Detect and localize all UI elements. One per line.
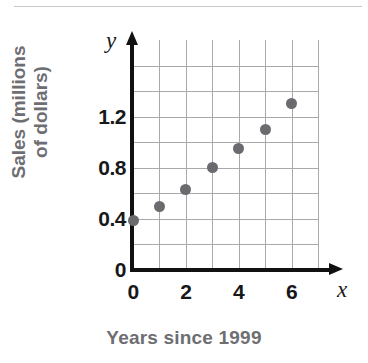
scatter-plot-figure: 00.40.81.2 0246 y x Sales (millions of d…: [0, 0, 368, 363]
gridline-vertical: [159, 40, 160, 270]
data-point: [260, 124, 271, 135]
gridline-horizontal: [133, 219, 318, 220]
y-tick-label: 1.2: [98, 105, 126, 129]
y-axis-line: [130, 44, 134, 272]
x-axis-line: [131, 268, 331, 272]
y-axis-title-line-2: of dollars): [30, 66, 52, 158]
data-point: [128, 215, 139, 226]
y-axis-title-line-1: Sales (millions: [8, 45, 30, 178]
gridline-horizontal: [133, 91, 318, 92]
gridline-vertical: [239, 40, 240, 270]
x-tick-label: 2: [171, 280, 201, 304]
gridline-vertical: [186, 40, 187, 270]
gridline-horizontal: [133, 244, 318, 245]
y-axis-tick-labels: 00.40.81.2: [60, 0, 126, 363]
x-tick-label: 6: [277, 280, 307, 304]
x-tick-label: 4: [224, 280, 254, 304]
gridline-horizontal: [133, 193, 318, 194]
x-axis-title: Years since 1999: [0, 327, 368, 349]
y-axis-title: Sales (millions of dollars): [0, 12, 60, 212]
plot-area: [133, 40, 318, 270]
gridline-vertical: [292, 40, 293, 270]
gridline-vertical: [212, 40, 213, 270]
gridline-horizontal: [133, 168, 318, 169]
x-axis-arrowhead-icon: [329, 263, 343, 275]
x-variable-label: x: [337, 277, 347, 303]
gridline-vertical: [265, 40, 266, 270]
data-point: [154, 201, 165, 212]
gridline-horizontal: [133, 66, 318, 67]
gridline-horizontal: [133, 142, 318, 143]
data-point: [207, 162, 218, 173]
y-tick-label: 0: [115, 258, 126, 282]
y-tick-label: 0.4: [98, 207, 126, 231]
gridline-horizontal: [133, 117, 318, 118]
y-tick-label: 0.8: [98, 156, 126, 180]
gridline-vertical: [318, 40, 319, 270]
y-axis-arrowhead-icon: [126, 31, 138, 45]
y-variable-label: y: [106, 28, 116, 54]
x-tick-label: 0: [118, 280, 148, 304]
